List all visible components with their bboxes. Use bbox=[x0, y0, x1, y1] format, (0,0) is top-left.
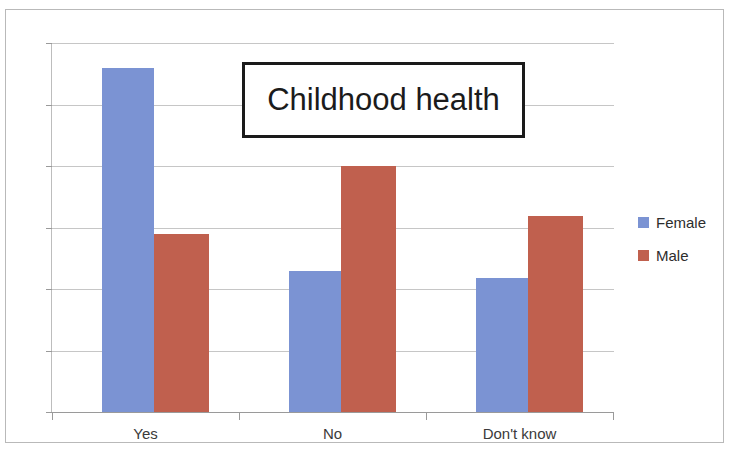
y-tickmark-20 bbox=[46, 289, 52, 290]
legend-swatch-female-icon bbox=[638, 217, 649, 228]
legend-label-male: Male bbox=[656, 248, 689, 263]
x-tickmark-2 bbox=[426, 412, 427, 420]
legend-item-female: Female bbox=[638, 206, 724, 239]
bar-no-male bbox=[341, 166, 396, 412]
legend-item-male: Male bbox=[638, 239, 724, 272]
chart-screenshot: 60 50 40 30 20 10 0 bbox=[0, 0, 730, 450]
legend-label-female: Female bbox=[656, 215, 706, 230]
x-tickmark-0 bbox=[52, 412, 53, 420]
bar-dontknow-female bbox=[476, 278, 528, 412]
bar-dontknow-male bbox=[528, 216, 583, 412]
gridline-60 bbox=[52, 43, 614, 44]
bar-yes-female bbox=[102, 68, 154, 412]
chart-title: Childhood health bbox=[267, 82, 500, 118]
x-axis-label-no: No bbox=[239, 426, 426, 441]
chart-frame: 60 50 40 30 20 10 0 bbox=[5, 9, 724, 443]
x-tickmark-3 bbox=[613, 412, 614, 420]
y-tickmark-30 bbox=[46, 228, 52, 229]
x-axis-label-dontknow: Don't know bbox=[426, 426, 613, 441]
y-tickmark-60 bbox=[46, 43, 52, 44]
chart-title-box: Childhood health bbox=[242, 62, 525, 138]
x-axis-label-yes: Yes bbox=[52, 426, 239, 441]
legend-swatch-male-icon bbox=[638, 250, 649, 261]
bar-no-female bbox=[289, 271, 341, 412]
bar-yes-male bbox=[154, 234, 209, 412]
y-tickmark-10 bbox=[46, 351, 52, 352]
y-tickmark-50 bbox=[46, 105, 52, 106]
y-tickmark-40 bbox=[46, 166, 52, 167]
gridline-0-baseline bbox=[52, 412, 614, 413]
chart-legend: Female Male bbox=[638, 206, 724, 272]
x-tickmark-1 bbox=[239, 412, 240, 420]
